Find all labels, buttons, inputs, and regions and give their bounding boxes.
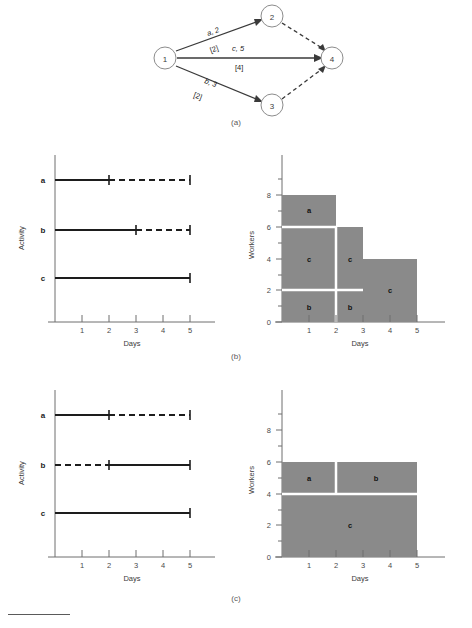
b-workers-block-label-2: b — [307, 303, 312, 312]
c-workers-region — [282, 462, 417, 557]
edge-3-to-4 — [282, 69, 322, 99]
panel-b-svg: 1 2 3 4 5 Days Activity a b c — [10, 150, 465, 355]
c-workers-ytick-8: 8 — [267, 426, 271, 435]
b-gantt-xtick-4: 4 — [161, 326, 165, 335]
panel-caption-c: (c) — [216, 594, 256, 603]
edge-sublabel-a: [2] — [209, 44, 220, 55]
b-workers-xtick-3: 3 — [361, 326, 365, 335]
b-workers-block-label-4: b — [348, 303, 353, 312]
panel-caption-a: (a) — [216, 118, 256, 127]
b-workers-ytick-0: 0 — [267, 318, 271, 327]
node-2-label: 2 — [270, 13, 275, 22]
network-diagram-svg: a, 2 [2] c, 5 [4] b, 3 [2] 1 2 3 4 — [130, 0, 360, 120]
b-gantt-bar-c — [55, 273, 190, 283]
b-workers-ylabel: Workers — [247, 231, 256, 259]
footer-rule — [8, 614, 70, 615]
c-workers-x-ticklabels: 1 2 3 4 5 — [307, 561, 419, 570]
c-gantt-x-ticks — [82, 550, 190, 557]
b-gantt-row-label-b: b — [41, 226, 46, 235]
panel-c: 1 2 3 4 5 Days Activity a b c — [10, 385, 465, 590]
c-gantt-xtick-2: 2 — [107, 561, 111, 570]
b-workers-chart: a c b c b c — [247, 155, 445, 348]
b-workers-ytick-2: 2 — [267, 286, 271, 295]
b-gantt-bar-a — [55, 175, 190, 185]
c-workers-ytick-4: 4 — [267, 490, 271, 499]
network-edges — [176, 19, 326, 102]
panel-c-svg: 1 2 3 4 5 Days Activity a b c — [10, 385, 465, 590]
c-workers-y-ticklabels: 0 2 4 6 8 — [267, 426, 271, 562]
b-workers-xlabel: Days — [351, 339, 368, 348]
c-workers-blocks — [282, 462, 417, 557]
b-gantt-bar-b — [55, 225, 190, 235]
b-workers-xtick-2: 2 — [334, 326, 338, 335]
c-gantt-row-label-a: a — [41, 411, 46, 420]
network-edge-labels: a, 2 [2] c, 5 [4] b, 3 [2] — [192, 25, 245, 102]
b-workers-xtick-4: 4 — [388, 326, 392, 335]
b-gantt-xtick-1: 1 — [80, 326, 84, 335]
c-gantt-ylabel: Activity — [17, 461, 26, 485]
b-gantt-xtick-3: 3 — [134, 326, 138, 335]
b-gantt-chart: 1 2 3 4 5 Days Activity a b c — [17, 155, 215, 348]
c-workers-ytick-2: 2 — [267, 521, 271, 530]
c-workers-ytick-6: 6 — [267, 458, 271, 467]
node-4-label: 4 — [330, 55, 335, 64]
c-gantt-row-label-b: b — [41, 461, 46, 470]
c-workers-block-label-1: b — [374, 474, 379, 483]
node-3-label: 3 — [270, 102, 275, 111]
c-workers-xlabel: Days — [351, 574, 368, 583]
c-gantt-bar-c — [55, 508, 190, 518]
edge-label-c: c, 5 — [232, 44, 245, 53]
c-workers-xtick-1: 1 — [307, 561, 311, 570]
c-gantt-bar-a — [55, 410, 190, 420]
b-workers-x-ticklabels: 1 2 3 4 5 — [307, 326, 419, 335]
c-gantt-bar-b — [55, 460, 190, 470]
c-workers-xtick-4: 4 — [388, 561, 392, 570]
b-gantt-x-ticks — [82, 315, 190, 322]
edge-label-b: b, 3 — [203, 76, 219, 89]
c-workers-block-label-2: c — [348, 521, 352, 530]
b-workers-xtick-5: 5 — [415, 326, 419, 335]
panel-b: 1 2 3 4 5 Days Activity a b c — [10, 150, 465, 355]
panel-caption-b: (b) — [216, 352, 256, 361]
panel-a-network-diagram: a, 2 [2] c, 5 [4] b, 3 [2] 1 2 3 4 — [130, 0, 360, 120]
b-workers-y-ticks — [276, 179, 282, 322]
b-workers-y-ticklabels: 0 2 4 6 8 — [267, 191, 271, 327]
b-gantt-xlabel: Days — [123, 339, 140, 348]
b-gantt-x-ticklabels: 1 2 3 4 5 — [80, 326, 192, 335]
edge-sublabel-c: [4] — [235, 63, 243, 72]
b-workers-block-label-5: c — [388, 286, 392, 295]
figure-root: a, 2 [2] c, 5 [4] b, 3 [2] 1 2 3 4 (a) — [0, 0, 472, 628]
c-workers-ylabel: Workers — [247, 466, 256, 494]
edge-2-to-4 — [282, 23, 322, 48]
b-gantt-row-label-a: a — [41, 176, 46, 185]
c-workers-y-ticks — [276, 414, 282, 557]
c-workers-xtick-5: 5 — [415, 561, 419, 570]
b-workers-block-label-3: c — [348, 255, 352, 264]
b-gantt-row-label-c: c — [41, 274, 46, 283]
b-workers-ytick-8: 8 — [267, 191, 271, 200]
b-workers-xtick-1: 1 — [307, 326, 311, 335]
c-gantt-x-ticklabels: 1 2 3 4 5 — [80, 561, 192, 570]
c-gantt-chart: 1 2 3 4 5 Days Activity a b c — [17, 390, 215, 583]
c-workers-xtick-2: 2 — [334, 561, 338, 570]
c-gantt-xlabel: Days — [123, 574, 140, 583]
c-gantt-xtick-4: 4 — [161, 561, 165, 570]
c-workers-chart: a b c 0 2 4 — [247, 390, 445, 583]
c-gantt-row-label-c: c — [41, 509, 46, 518]
node-1-label: 1 — [163, 55, 168, 64]
b-gantt-xtick-2: 2 — [107, 326, 111, 335]
c-workers-xtick-3: 3 — [361, 561, 365, 570]
c-workers-ytick-0: 0 — [267, 553, 271, 562]
c-gantt-xtick-3: 3 — [134, 561, 138, 570]
c-gantt-xtick-1: 1 — [80, 561, 84, 570]
b-gantt-ylabel: Activity — [17, 226, 26, 250]
b-workers-ytick-6: 6 — [267, 223, 271, 232]
edge-sublabel-b: [2] — [192, 90, 203, 101]
b-workers-ytick-4: 4 — [267, 255, 271, 264]
c-gantt-xtick-5: 5 — [188, 561, 192, 570]
b-workers-block-label-1: c — [307, 255, 311, 264]
b-gantt-xtick-5: 5 — [188, 326, 192, 335]
